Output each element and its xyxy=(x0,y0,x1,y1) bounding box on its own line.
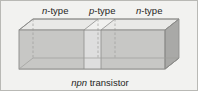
npn-transistor-figure: n-type p-type n-type npn transistor xyxy=(0,0,198,91)
figure-caption: npn transistor xyxy=(1,78,198,88)
front-face-middle-p-region xyxy=(84,30,101,69)
front-face-right-n-region xyxy=(101,30,165,69)
label-right-n-type: n-type xyxy=(136,6,162,16)
front-face-left-n-region xyxy=(19,30,84,69)
label-left-n-type: n-type xyxy=(42,6,68,16)
figure-caption-italic: npn xyxy=(71,77,87,88)
figure-caption-suffix: transistor xyxy=(87,77,129,88)
label-middle-p-type: p-type xyxy=(89,6,115,16)
label-middle-p-type-suffix: -type xyxy=(94,5,115,16)
label-right-n-type-suffix: -type xyxy=(141,5,162,16)
label-left-n-type-suffix: -type xyxy=(47,5,68,16)
